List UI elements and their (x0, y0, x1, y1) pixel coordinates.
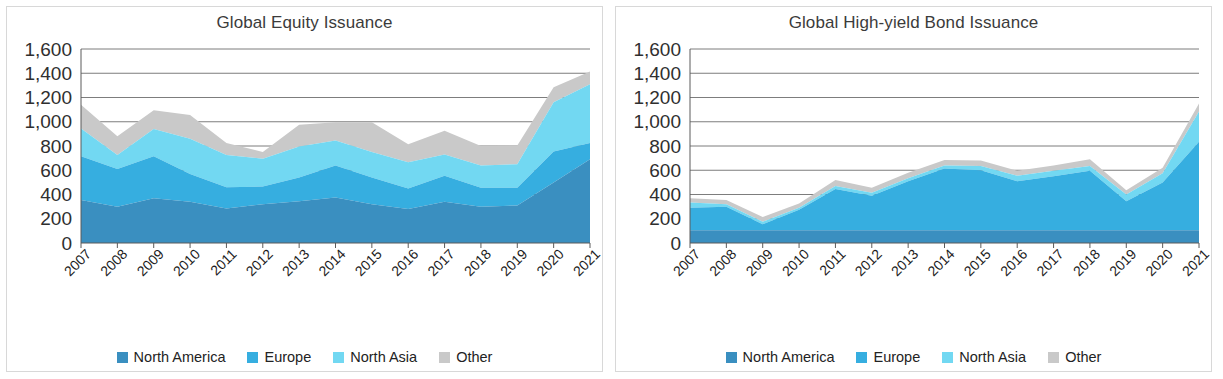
legend-item[interactable]: North Asia (333, 349, 417, 365)
x-axis-tick-label: 2020 (533, 246, 566, 279)
legend-swatch-europe (856, 352, 867, 363)
plot-area-bond: 02004006008001,0001,2001,4001,6002007200… (616, 41, 1212, 301)
legend-swatch-europe (247, 352, 258, 363)
x-axis-tick-label: 2021 (1179, 246, 1212, 279)
y-axis-tick-label: 200 (649, 208, 681, 229)
legend-swatch-other (1048, 352, 1059, 363)
y-axis-tick-label: 1,000 (633, 111, 681, 132)
legend-item[interactable]: North America (726, 349, 835, 365)
chart-panel-global-equity-issuance: Global Equity Issuance 02004006008001,00… (6, 6, 603, 372)
figure-root: Global Equity Issuance 02004006008001,00… (0, 0, 1223, 379)
x-axis-tick-label: 2010 (779, 246, 812, 279)
y-axis-tick-label: 0 (61, 233, 72, 254)
x-axis-tick-label: 2019 (497, 246, 530, 279)
page-title: Global High-yield Bond Issuance (616, 13, 1211, 33)
area-chart-bond: 02004006008001,0001,2001,4001,6002007200… (616, 41, 1212, 301)
x-axis-tick-label: 2012 (852, 246, 885, 279)
y-axis-tick-label: 1,000 (24, 111, 72, 132)
x-axis-tick-label: 2010 (170, 246, 203, 279)
legend-item[interactable]: Other (1048, 349, 1101, 365)
y-axis-tick-label: 200 (40, 208, 72, 229)
x-axis-tick-label: 2012 (243, 246, 276, 279)
y-axis-tick-label: 0 (670, 233, 681, 254)
y-axis-tick-label: 800 (649, 136, 681, 157)
x-axis-tick-label: 2015 (961, 246, 994, 279)
x-axis-tick-label: 2014 (315, 246, 348, 279)
y-axis-tick-label: 1,400 (633, 63, 681, 84)
y-axis-tick-label: 1,600 (24, 41, 72, 60)
y-axis-tick-label: 600 (40, 160, 72, 181)
x-axis-tick-label: 2016 (388, 246, 421, 279)
x-axis-tick-label: 2020 (1142, 246, 1175, 279)
x-axis-tick-label: 2017 (424, 246, 457, 279)
x-axis-tick-label: 2008 (706, 246, 739, 279)
x-axis-tick-label: 2016 (997, 246, 1030, 279)
x-axis-tick-label: 2009 (742, 246, 775, 279)
x-axis-tick-label: 2011 (816, 246, 849, 279)
y-axis-tick-label: 1,400 (24, 63, 72, 84)
legend-swatch-other (439, 352, 450, 363)
y-axis-tick-label: 600 (649, 160, 681, 181)
chart-legend-bond: North AmericaEuropeNorth AsiaOther (616, 349, 1211, 365)
legend-swatch-north-america (117, 352, 128, 363)
legend-item[interactable]: Europe (856, 349, 920, 365)
x-axis-tick-label: 2017 (1033, 246, 1066, 279)
legend-swatch-north-america (726, 352, 737, 363)
x-axis-tick-label: 2018 (1070, 246, 1103, 279)
x-axis-tick-label: 2013 (888, 246, 921, 279)
legend-item-label: North Asia (959, 349, 1026, 365)
legend-item-label: North America (134, 349, 226, 365)
chart-panel-global-high-yield-bond-issuance: Global High-yield Bond Issuance 02004006… (615, 6, 1212, 372)
x-axis-tick-label: 2014 (924, 246, 957, 279)
legend-item-label: North Asia (350, 349, 417, 365)
y-axis-tick-label: 800 (40, 136, 72, 157)
legend-item-label: North America (743, 349, 835, 365)
x-axis-tick-label: 2018 (461, 246, 494, 279)
x-axis-tick-label: 2013 (279, 246, 312, 279)
legend-item-label: Europe (873, 349, 920, 365)
area-chart-equity: 02004006008001,0001,2001,4001,6002007200… (7, 41, 603, 301)
x-axis-tick-label: 2009 (133, 246, 166, 279)
area-series-north-america (690, 230, 1199, 243)
x-axis-tick-label: 2021 (570, 246, 603, 279)
legend-item-label: Europe (264, 349, 311, 365)
legend-item[interactable]: North America (117, 349, 226, 365)
legend-item[interactable]: Other (439, 349, 492, 365)
legend-swatch-north-asia (333, 352, 344, 363)
legend-item-label: Other (1065, 349, 1101, 365)
plot-area-equity: 02004006008001,0001,2001,4001,6002007200… (7, 41, 603, 301)
y-axis-tick-label: 400 (40, 184, 72, 205)
legend-swatch-north-asia (942, 352, 953, 363)
chart-legend-equity: North AmericaEuropeNorth AsiaOther (7, 349, 602, 365)
y-axis-tick-label: 1,200 (633, 87, 681, 108)
y-axis-tick-label: 400 (649, 184, 681, 205)
x-axis-tick-label: 2011 (207, 246, 240, 279)
legend-item[interactable]: North Asia (942, 349, 1026, 365)
x-axis-tick-label: 2019 (1106, 246, 1139, 279)
x-axis-tick-label: 2015 (352, 246, 385, 279)
page-title: Global Equity Issuance (7, 13, 602, 33)
x-axis-tick-label: 2008 (97, 246, 130, 279)
legend-item-label: Other (456, 349, 492, 365)
y-axis-tick-label: 1,600 (633, 41, 681, 60)
legend-item[interactable]: Europe (247, 349, 311, 365)
y-axis-tick-label: 1,200 (24, 87, 72, 108)
